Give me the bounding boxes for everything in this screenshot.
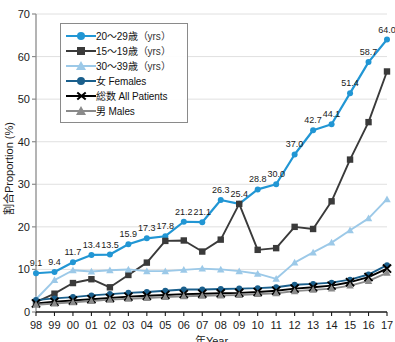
- svg-text:06: 06: [178, 319, 190, 331]
- legend-item-label: 20～29歳（yrs）: [96, 28, 171, 43]
- svg-text:40: 40: [18, 136, 30, 148]
- svg-text:10: 10: [18, 263, 30, 275]
- svg-text:11.7: 11.7: [65, 247, 82, 257]
- svg-text:17.8: 17.8: [157, 221, 175, 231]
- legend-item-4[interactable]: 総数 All Patients: [61, 88, 183, 103]
- svg-text:10: 10: [252, 319, 264, 331]
- legend-item-label: 15～19歳（yrs）: [96, 43, 171, 58]
- svg-text:30.0: 30.0: [267, 169, 285, 179]
- legend-item-1[interactable]: 15～19歳（yrs）: [61, 43, 183, 58]
- legend-marker-icon: [66, 104, 96, 118]
- svg-text:13.4: 13.4: [83, 240, 101, 250]
- svg-text:05: 05: [159, 319, 171, 331]
- legend-item-suffix: （yrs）: [138, 61, 171, 72]
- legend-item-2[interactable]: 30～39歳（yrs）: [61, 58, 183, 73]
- legend-marker-icon: [66, 44, 96, 58]
- svg-text:17: 17: [381, 319, 393, 331]
- y-axis-ticks: 010203040506070: [18, 8, 36, 318]
- legend-marker-icon: [66, 89, 96, 103]
- svg-text:28.8: 28.8: [249, 174, 267, 184]
- legend-item-label: 女 Females: [96, 73, 146, 88]
- legend-item-0[interactable]: 20～29歳（yrs）: [61, 28, 183, 43]
- svg-text:9.4: 9.4: [48, 257, 61, 267]
- legend-marker-icon: [66, 29, 96, 43]
- svg-text:21.1: 21.1: [193, 207, 211, 217]
- legend-marker-icon: [66, 59, 96, 73]
- svg-text:13: 13: [307, 319, 319, 331]
- y-axis-title: 割合Proportion (%): [2, 122, 15, 215]
- svg-text:02: 02: [104, 319, 116, 331]
- svg-text:09: 09: [233, 319, 245, 331]
- legend-item-label: 男 Males: [96, 103, 135, 118]
- svg-text:25.4: 25.4: [230, 189, 248, 199]
- svg-text:60: 60: [18, 51, 30, 63]
- legend-item-label: 総数 All Patients: [96, 88, 167, 103]
- svg-text:15: 15: [344, 319, 356, 331]
- svg-text:11: 11: [270, 319, 281, 331]
- svg-text:44.1: 44.1: [323, 109, 341, 119]
- legend-item-3[interactable]: 女 Females: [61, 73, 183, 88]
- svg-text:08: 08: [215, 319, 227, 331]
- svg-text:26.3: 26.3: [212, 185, 230, 195]
- svg-text:58.7: 58.7: [360, 47, 378, 57]
- svg-text:99: 99: [48, 319, 60, 331]
- x-axis-title: 年Year: [195, 334, 229, 342]
- svg-text:01: 01: [85, 319, 97, 331]
- svg-text:03: 03: [122, 319, 134, 331]
- svg-text:9.1: 9.1: [30, 258, 43, 268]
- svg-text:51.4: 51.4: [341, 78, 359, 88]
- legend-item-suffix: （yrs）: [138, 31, 171, 42]
- svg-text:0: 0: [24, 306, 30, 318]
- svg-text:50: 50: [18, 93, 30, 105]
- svg-text:64.0: 64.0: [378, 25, 395, 35]
- legend-item-5[interactable]: 男 Males: [61, 103, 183, 118]
- legend-item-label: 30～39歳（yrs）: [96, 58, 171, 73]
- svg-text:16: 16: [362, 319, 374, 331]
- svg-text:17.3: 17.3: [138, 223, 156, 233]
- svg-text:14: 14: [325, 319, 337, 331]
- svg-text:98: 98: [30, 319, 42, 331]
- svg-text:30: 30: [18, 178, 30, 190]
- svg-text:21.2: 21.2: [175, 207, 193, 217]
- svg-text:04: 04: [141, 319, 153, 331]
- x-axis-ticks: 9899000102030405060708091011121314151617: [30, 312, 393, 331]
- chart-legend: 20～29歳（yrs）15～19歳（yrs）30～39歳（yrs）女 Femal…: [60, 23, 188, 123]
- svg-text:00: 00: [67, 319, 79, 331]
- svg-text:15.9: 15.9: [120, 229, 138, 239]
- legend-item-suffix: （yrs）: [138, 46, 171, 57]
- svg-text:07: 07: [196, 319, 208, 331]
- svg-text:12: 12: [289, 319, 301, 331]
- chart-container: 010203040506070 989900010203040506070809…: [0, 0, 395, 342]
- svg-text:37.0: 37.0: [286, 139, 304, 149]
- svg-text:42.7: 42.7: [304, 115, 322, 125]
- legend-marker-icon: [66, 74, 96, 88]
- svg-text:13.5: 13.5: [101, 240, 119, 250]
- svg-text:20: 20: [18, 221, 30, 233]
- svg-text:70: 70: [18, 8, 30, 20]
